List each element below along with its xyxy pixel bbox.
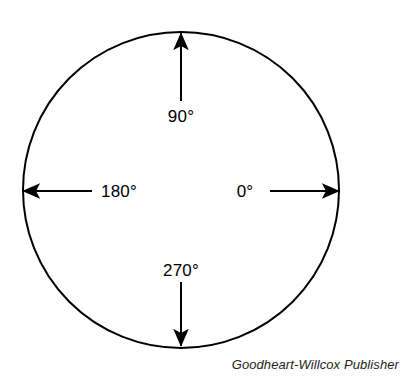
angle-diagram-figure: 90° 0° 180° 270° Goodheart-Willcox Publi…	[0, 0, 407, 378]
label-180-degrees: 180°	[101, 182, 137, 201]
label-0-degrees: 0°	[237, 182, 254, 201]
label-90-degrees: 90°	[168, 107, 194, 126]
publisher-credit: Goodheart-Willcox Publisher	[232, 357, 400, 372]
label-270-degrees: 270°	[163, 261, 199, 280]
angle-diagram-canvas: 90° 0° 180° 270° Goodheart-Willcox Publi…	[0, 0, 407, 378]
figure-background	[0, 0, 407, 378]
